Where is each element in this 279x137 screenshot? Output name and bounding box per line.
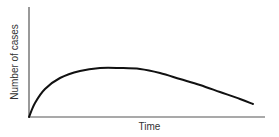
x-axis-label: Time — [0, 121, 279, 132]
chart-canvas — [0, 0, 279, 137]
y-axis-label: Number of cases — [9, 52, 20, 72]
cases-curve — [29, 68, 253, 117]
y-axis-label-text: Number of cases — [9, 24, 20, 100]
x-axis-label-text: Time — [139, 121, 161, 132]
